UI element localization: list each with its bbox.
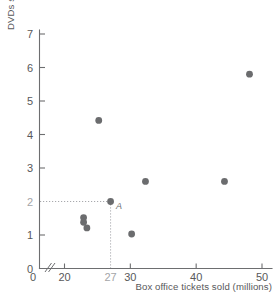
plot-canvas: 02027304050 01234567 A Box office ticket… (0, 0, 278, 302)
x-axis-title: Box office tickets sold (millions) (135, 281, 272, 292)
data-point-5 (128, 231, 135, 238)
y-tick-label-4: 4 (27, 129, 33, 141)
y-axis-title: DVDs sold (millions) (5, 0, 16, 30)
y-axis-ticks-group: 01234567 (27, 28, 45, 275)
y-tick-label-0: 0 (27, 263, 33, 275)
point-annotations-group: A (115, 201, 122, 211)
data-point-7 (221, 178, 228, 185)
y-tick-label-7: 7 (27, 28, 33, 40)
data-point-A (107, 198, 114, 205)
x-axis-break-icon (45, 263, 55, 272)
y-tick-label-3: 3 (27, 162, 33, 174)
data-point-8 (246, 71, 253, 78)
data-point-2 (83, 225, 90, 232)
scatter-plot-figure: 02027304050 01234567 A Box office ticket… (0, 0, 278, 302)
x-tick-label-27: 27 (104, 271, 116, 283)
data-point-3 (95, 117, 102, 124)
data-points-group (80, 71, 253, 238)
guide-lines-group (40, 202, 111, 269)
y-tick-label-5: 5 (27, 95, 33, 107)
y-tick-label-2: 2 (27, 196, 33, 208)
point-label-A: A (115, 201, 122, 211)
data-point-1 (80, 219, 87, 226)
data-point-6 (142, 178, 149, 185)
x-tick-label-20: 20 (58, 271, 70, 283)
y-tick-label-1: 1 (27, 229, 33, 241)
y-tick-label-6: 6 (27, 62, 33, 74)
